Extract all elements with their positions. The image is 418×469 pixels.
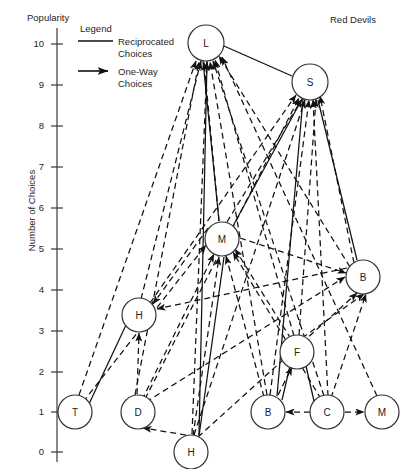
node-C[interactable]: C [310, 395, 344, 429]
y-tick-8: 8 [26, 120, 44, 131]
sociogram-figure: L S M B H F T D [0, 0, 418, 469]
node-M-lower[interactable]: M [365, 395, 399, 429]
node-label: H [187, 447, 194, 458]
node-label: B [265, 407, 272, 418]
node-M-upper[interactable]: M [205, 222, 239, 256]
y-tick-4: 4 [26, 284, 44, 295]
node-label: M [218, 234, 226, 245]
node-label: M [378, 407, 386, 418]
node-H-upper[interactable]: H [122, 298, 156, 332]
legend-heading: Legend [80, 23, 112, 34]
node-L[interactable]: L [188, 25, 224, 61]
legend-label-oneway: One-Way Choices [118, 66, 158, 89]
node-label: D [134, 407, 141, 418]
y-tick-10: 10 [26, 38, 44, 49]
node-label: F [294, 347, 300, 358]
node-S[interactable]: S [292, 64, 328, 100]
y-axis [51, 28, 63, 462]
node-F[interactable]: F [280, 335, 314, 369]
y-tick-5: 5 [26, 243, 44, 254]
node-B-lower[interactable]: B [251, 395, 285, 429]
node-label: C [323, 407, 330, 418]
y-tick-9: 9 [26, 79, 44, 90]
node-label: H [135, 310, 142, 321]
legend-label-reciprocated: Reciprocated Choices [118, 36, 174, 59]
y-tick-3: 3 [26, 325, 44, 336]
chart-title: Red Devils [330, 14, 376, 25]
node-T[interactable]: T [58, 395, 92, 429]
y-tick-7: 7 [26, 161, 44, 172]
node-B-upper[interactable]: B [346, 260, 380, 294]
nodes: L S M B H F T D [58, 25, 399, 469]
popularity-axis-label: Popularity [27, 12, 69, 23]
y-tick-1: 1 [26, 406, 44, 417]
node-H-lower[interactable]: H [174, 435, 208, 469]
node-label: B [360, 272, 367, 283]
y-tick-6: 6 [26, 202, 44, 213]
y-tick-2: 2 [26, 366, 44, 377]
y-tick-0: 0 [26, 446, 44, 457]
node-label: T [72, 407, 78, 418]
node-label: S [307, 77, 314, 88]
node-D[interactable]: D [121, 395, 155, 429]
node-label: L [203, 38, 209, 49]
